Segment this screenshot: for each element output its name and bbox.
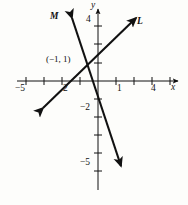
x-axis-label: x	[171, 83, 175, 93]
x-tick-label-neg5: −5	[15, 84, 25, 94]
coordinate-plane-graph: −5 2 1 4 4 −2 −5 x y M L (−1, 1)	[0, 0, 188, 205]
graph-canvas	[0, 0, 188, 205]
x-tick-label-pos4: 4	[151, 84, 156, 94]
x-tick-label-pos1: 1	[117, 84, 122, 94]
y-tick-label-pos4: 4	[86, 15, 91, 25]
line-label-M: M	[50, 12, 58, 22]
y-tick-label-neg5: −5	[80, 158, 90, 168]
y-axis-label: y	[91, 1, 95, 11]
y-tick-label-neg2: −2	[80, 103, 90, 113]
line-label-L: L	[137, 17, 143, 27]
intersection-point-label: (−1, 1)	[46, 55, 71, 64]
x-tick-label-neg2: 2	[63, 84, 68, 94]
